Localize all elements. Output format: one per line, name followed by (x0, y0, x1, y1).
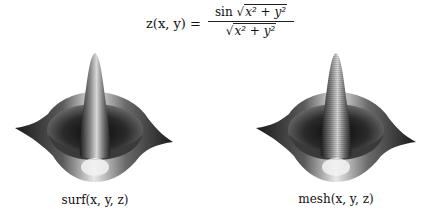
surf-caption: surf(x, y, z) (62, 193, 129, 207)
mesh-caption: mesh(x, y, z) (298, 192, 373, 206)
formula-numerator: sin √x² + y² (206, 4, 296, 20)
surf-plot (8, 44, 188, 189)
mesh-plot (249, 44, 428, 189)
fraction-bar (208, 21, 294, 22)
formula-fraction: sin √x² + y² √x² + y² (206, 4, 296, 39)
denominator-radicand: x² + y² (233, 23, 276, 38)
formula-lhs: z(x, y) = (146, 16, 201, 31)
formula-denominator: √x² + y² (206, 23, 296, 39)
central-peak (80, 53, 111, 159)
numerator-radicand: x² + y² (244, 4, 287, 19)
formula-sin: sin (215, 5, 233, 19)
formula: z(x, y) = sin √x² + y² √x² + y² (0, 0, 428, 48)
